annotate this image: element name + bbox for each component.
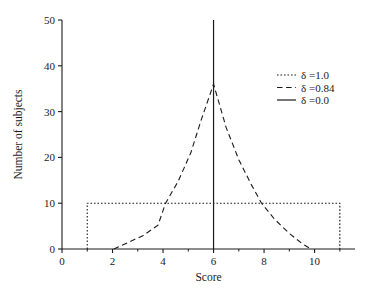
legend-label-2: δ =0.0 xyxy=(301,94,329,106)
x-axis-title: Score xyxy=(195,271,221,283)
chart-figure: 01020304050 0246810 δ =1.0δ =0.84δ =0.0 … xyxy=(0,0,379,295)
y-axis-tick-label: 0 xyxy=(50,243,56,255)
legend-label-0: δ =1.0 xyxy=(301,69,329,81)
chart-background xyxy=(0,0,379,295)
y-axis-tick-label: 30 xyxy=(44,106,56,118)
y-axis-tick-label: 10 xyxy=(44,197,56,209)
x-axis-tick-label: 0 xyxy=(59,255,65,267)
y-axis-title: Number of subjects xyxy=(12,89,25,180)
x-axis-tick-label: 10 xyxy=(309,255,321,267)
x-axis-tick-label: 8 xyxy=(261,255,267,267)
legend-label-1: δ =0.84 xyxy=(301,82,335,94)
x-axis-tick-label: 6 xyxy=(211,255,217,267)
x-axis-tick-label: 4 xyxy=(160,255,166,267)
y-axis-tick-label: 20 xyxy=(44,151,56,163)
y-axis-tick-label: 50 xyxy=(44,14,56,26)
distribution-line-chart: 01020304050 0246810 δ =1.0δ =0.84δ =0.0 … xyxy=(0,0,379,295)
y-axis-tick-label: 40 xyxy=(44,60,56,72)
x-axis-tick-label: 2 xyxy=(110,255,116,267)
